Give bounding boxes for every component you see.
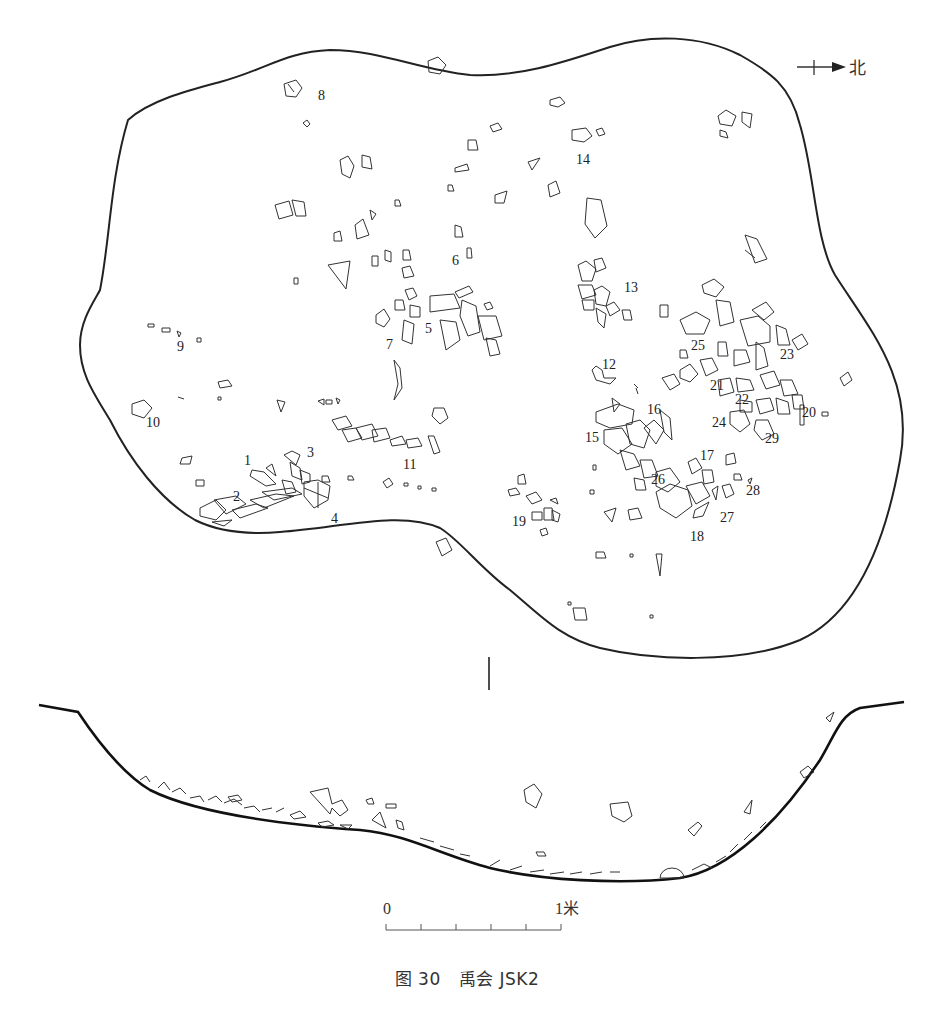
artifact-label-26: 26 bbox=[651, 472, 665, 487]
artifact-label-6: 6 bbox=[452, 253, 459, 268]
pit-plan-and-section-drawing: 北 bbox=[0, 0, 934, 1023]
section-profile-line bbox=[39, 702, 904, 881]
scale-bar: 0 1米 bbox=[383, 900, 579, 930]
artifact-label-17: 17 bbox=[700, 448, 714, 463]
stone-scatter bbox=[132, 57, 852, 620]
artifact-label-11: 11 bbox=[403, 457, 416, 472]
figure-title: 禹会 JSK2 bbox=[459, 969, 540, 989]
figure-caption: 图 30 禹会 JSK2 bbox=[0, 965, 934, 990]
artifact-label-15: 15 bbox=[585, 430, 599, 445]
artifact-label-8: 8 bbox=[318, 88, 325, 103]
artifact-label-22: 22 bbox=[735, 392, 749, 407]
artifact-label-29: 29 bbox=[765, 431, 779, 446]
artifact-label-1: 1 bbox=[244, 453, 251, 468]
artifact-label-20: 20 bbox=[802, 405, 816, 420]
artifact-label-28: 28 bbox=[746, 483, 760, 498]
artifact-label-13: 13 bbox=[624, 280, 638, 295]
artifact-label-4: 4 bbox=[331, 511, 338, 526]
artifact-label-24: 24 bbox=[712, 415, 726, 430]
artifact-label-19: 19 bbox=[512, 514, 526, 529]
artifact-label-14: 14 bbox=[576, 152, 590, 167]
artifact-label-10: 10 bbox=[146, 415, 160, 430]
artifact-label-21: 21 bbox=[710, 378, 724, 393]
artifact-label-12: 12 bbox=[602, 357, 616, 372]
artifact-label-2: 2 bbox=[233, 489, 240, 504]
artifact-label-16: 16 bbox=[647, 402, 661, 417]
north-arrow: 北 bbox=[797, 58, 866, 78]
artifact-label-23: 23 bbox=[780, 347, 794, 362]
scale-start-label: 0 bbox=[383, 900, 391, 917]
artifact-label-25: 25 bbox=[691, 338, 705, 353]
artifact-label-27: 27 bbox=[720, 510, 734, 525]
north-label: 北 bbox=[849, 58, 866, 78]
artifact-label-3: 3 bbox=[307, 445, 314, 460]
scale-end-label: 1米 bbox=[555, 900, 579, 917]
section-profile bbox=[39, 702, 904, 881]
section-stones bbox=[140, 712, 834, 878]
artifact-label-9: 9 bbox=[177, 339, 184, 354]
north-arrow-icon bbox=[797, 60, 846, 75]
artifact-label-7: 7 bbox=[386, 337, 393, 352]
artifact-label-18: 18 bbox=[690, 529, 704, 544]
figure-number: 图 30 bbox=[395, 969, 441, 989]
artifact-label-5: 5 bbox=[425, 321, 432, 336]
